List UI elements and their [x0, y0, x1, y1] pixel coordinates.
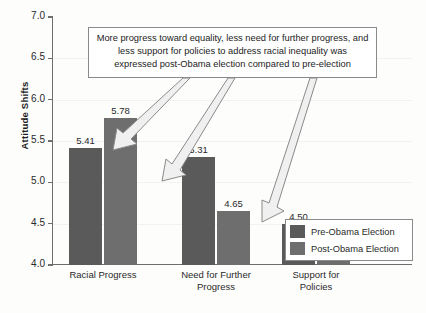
y-tick-label: 7.0 [31, 10, 45, 21]
x-axis-category-label: Support for Policies [261, 269, 371, 293]
bar-chart-figure: Attitude Shifts 7.06.56.05.55.04.54.0 5.… [0, 0, 426, 313]
y-tick-label: 5.5 [31, 134, 45, 145]
bar-value-label: 5.78 [98, 105, 143, 116]
bar-value-label: 5.41 [63, 135, 108, 146]
y-axis-title: Attitude Shifts [19, 56, 30, 176]
legend-label-post: Post-Obama Election [311, 244, 399, 254]
legend: Pre-Obama Election Post-Obama Election [285, 219, 413, 261]
bar [69, 148, 102, 265]
bar [104, 118, 137, 265]
y-tick-label: 6.5 [31, 51, 45, 62]
legend-label-pre: Pre-Obama Election [311, 227, 395, 237]
bar [182, 157, 215, 265]
x-axis-category-label: Need for Further Progress [161, 269, 271, 293]
y-tick-label: 4.5 [31, 217, 45, 228]
bar-value-label: 4.65 [211, 198, 256, 209]
y-tick-label: 6.0 [31, 93, 45, 104]
y-tick-label: 4.0 [31, 258, 45, 269]
bar-value-label: 5.31 [176, 144, 221, 155]
bar [217, 211, 250, 265]
legend-item-pre: Pre-Obama Election [290, 223, 408, 240]
legend-swatch-post-icon [290, 242, 305, 255]
x-axis-category-label: Racial Progress [48, 269, 158, 281]
y-tick-label: 5.0 [31, 175, 45, 186]
legend-swatch-pre-icon [290, 225, 305, 238]
legend-item-post: Post-Obama Election [290, 240, 408, 257]
callout-annotation-box: More progress toward equality, less need… [88, 27, 377, 78]
